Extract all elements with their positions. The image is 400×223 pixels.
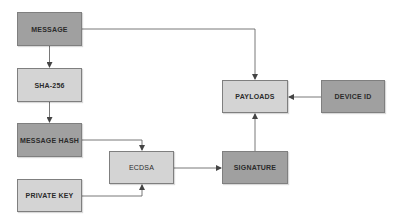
node-payloads: PAYLOADS [222, 80, 288, 113]
node-label: MESSAGE HASH [20, 137, 79, 144]
edge-message-hash-to-ecdsa [82, 140, 142, 150]
edge-private-key-to-ecdsa [82, 185, 142, 196]
node-label: MESSAGE [31, 26, 67, 33]
node-label: PRIVATE KEY [26, 192, 74, 199]
node-device-id: DEVICE ID [321, 80, 385, 113]
node-signature: SIGNATURE [222, 151, 288, 184]
node-label: PAYLOADS [235, 93, 274, 100]
node-private-key: PRIVATE KEY [17, 179, 82, 212]
node-ecdsa: ECDSA [109, 151, 174, 184]
node-label: SIGNATURE [234, 164, 277, 171]
node-label: SHA-256 [34, 82, 64, 89]
node-message-hash: MESSAGE HASH [17, 123, 82, 157]
node-message: MESSAGE [17, 12, 82, 46]
node-sha256: SHA-256 [17, 68, 82, 102]
node-label: ECDSA [129, 164, 154, 171]
node-label: DEVICE ID [335, 93, 372, 100]
edge-message-to-payloads [82, 29, 255, 79]
